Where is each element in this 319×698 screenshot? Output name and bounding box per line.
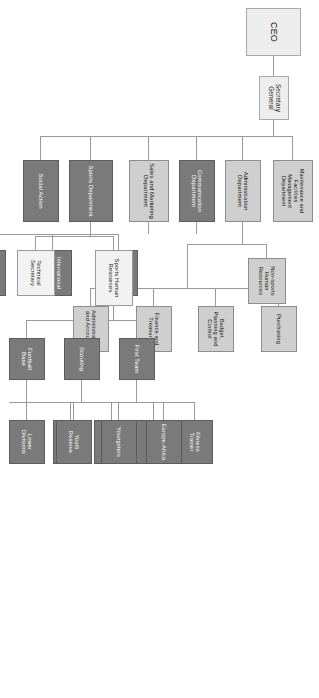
connector-scouting-europe bbox=[163, 402, 164, 420]
node-scouting[interactable]: Scouting bbox=[64, 338, 100, 380]
connector-firstteam-bus-lead bbox=[136, 380, 137, 402]
org-chart-canvas: CEO Secretary General Maintenance and Fa… bbox=[0, 0, 319, 698]
connector-footballbase-lower bbox=[26, 402, 27, 420]
node-non-sports-human-resources[interactable]: Non-sports Human Resources bbox=[248, 258, 286, 304]
connector-comm-out bbox=[196, 222, 197, 234]
connector-footballbase-youngsters bbox=[118, 402, 119, 420]
org-chart-viewport: CEO Secretary General Maintenance and Fa… bbox=[0, 0, 319, 698]
connector-sports-techsec bbox=[35, 236, 36, 250]
node-budget-planning-control[interactable]: Budget, Planning and Control bbox=[198, 306, 234, 352]
node-non-sports-human-resources-label: Non-sports Human Resources bbox=[258, 261, 277, 301]
node-communication-department-label: Communication Department bbox=[191, 163, 204, 219]
node-administration-department[interactable]: Administration Department bbox=[225, 160, 261, 222]
connector-spine-sales bbox=[148, 136, 149, 160]
node-sales-marketing-department[interactable]: Sales and Marketing Department bbox=[129, 160, 169, 222]
node-ceo-label: CEO bbox=[269, 11, 279, 53]
node-administration-department-label: Administration Department bbox=[237, 163, 250, 219]
connector-spine-social bbox=[40, 136, 41, 160]
connector-admin-vert bbox=[188, 244, 267, 245]
node-youngsters-label: Youngsters bbox=[116, 423, 122, 461]
connector-footballbase-bus-lead bbox=[26, 380, 27, 402]
node-fitness-trainer[interactable]: Fitness Trainer bbox=[177, 420, 213, 464]
connector-sports-out bbox=[90, 222, 91, 236]
node-first-team-label: First Team bbox=[134, 341, 140, 377]
node-maintenance-department-label: Maintenance and Facilities Management De… bbox=[281, 163, 305, 219]
node-maintenance-department[interactable]: Maintenance and Facilities Management De… bbox=[273, 160, 313, 222]
node-sports-human-resources-label: Sports Human Resources bbox=[108, 253, 121, 303]
node-communication-department[interactable]: Communication Department bbox=[179, 160, 215, 222]
node-social-action[interactable]: Social Action bbox=[23, 160, 59, 222]
node-media-relations[interactable]: Media Relations bbox=[0, 250, 6, 296]
connector-admin-accounts bbox=[90, 288, 91, 306]
node-sports-department-label: Sports Department bbox=[88, 163, 94, 219]
connector-comm-bus bbox=[0, 234, 119, 235]
node-youngsters[interactable]: Youngsters bbox=[101, 420, 137, 464]
node-europe-africa-label: Europe-Africa bbox=[161, 423, 167, 461]
node-europe-africa[interactable]: Europe-Africa bbox=[146, 420, 182, 464]
connector-secgen-spine bbox=[273, 120, 274, 136]
spine-main bbox=[41, 136, 293, 137]
node-first-team[interactable]: First Team bbox=[119, 338, 155, 380]
node-technical-secretary[interactable]: Technical Secretary bbox=[17, 250, 55, 296]
node-scouting-label: Scouting bbox=[79, 341, 85, 377]
node-lower-divisions-label: Lower Divisions bbox=[21, 423, 34, 461]
connector-comm-member bbox=[118, 234, 119, 250]
connector-sports-hr bbox=[113, 236, 114, 250]
node-sales-marketing-department-label: Sales and Marketing Department bbox=[143, 163, 156, 219]
node-secretary-general[interactable]: Secretary General bbox=[259, 76, 289, 120]
node-fitness-trainer-label: Fitness Trainer bbox=[189, 423, 202, 461]
connector-spine-communication bbox=[196, 136, 197, 160]
connector-footballbase-youth bbox=[73, 402, 74, 420]
node-sports-department[interactable]: Sports Department bbox=[69, 160, 113, 222]
connector-firstteam-medical bbox=[153, 402, 154, 420]
node-ceo[interactable]: CEO bbox=[246, 8, 301, 56]
node-technical-secretary-label: Technical Secretary bbox=[30, 253, 43, 293]
node-youth-reserve-label: Youth Reserve bbox=[68, 423, 81, 461]
connector-firstteam-assistants bbox=[70, 402, 71, 420]
connector-sportshr-footballbase bbox=[26, 320, 27, 338]
connector-ceo-secgen bbox=[273, 56, 274, 76]
node-football-base[interactable]: Football Base bbox=[9, 338, 45, 380]
connector-admin-nonsportshr bbox=[266, 244, 267, 258]
connector-firstteam-fitness bbox=[194, 402, 195, 420]
node-football-base-label: Football Base bbox=[21, 341, 34, 377]
connector-sports-bus bbox=[36, 236, 114, 237]
connector-sales-out bbox=[148, 222, 149, 234]
connector-firstteam-secondcoach bbox=[111, 402, 112, 420]
node-budget-planning-control-label: Budget, Planning and Control bbox=[207, 309, 226, 349]
connector-spine-administration bbox=[242, 136, 243, 160]
connector-sportshr-out bbox=[113, 306, 114, 320]
node-purchasing-label: Purchasing bbox=[276, 309, 282, 349]
node-lower-divisions[interactable]: Lower Divisions bbox=[9, 420, 45, 464]
connector-spine-maintenance bbox=[292, 136, 293, 160]
connector-spine-sports bbox=[90, 136, 91, 160]
node-secretary-general-label: Secretary General bbox=[267, 79, 281, 117]
node-youth-reserve[interactable]: Youth Reserve bbox=[56, 420, 92, 464]
connector-admin-finance bbox=[153, 288, 154, 306]
connector-admin-out bbox=[242, 222, 243, 244]
connector-admin-bus-lead bbox=[187, 244, 188, 288]
connector-scouting-bus-lead bbox=[81, 380, 82, 402]
node-sports-human-resources[interactable]: Sports Human Resources bbox=[95, 250, 133, 306]
node-social-action-label: Social Action bbox=[38, 163, 44, 219]
node-purchasing[interactable]: Purchasing bbox=[261, 306, 297, 352]
connector-admin-budget bbox=[215, 288, 216, 306]
